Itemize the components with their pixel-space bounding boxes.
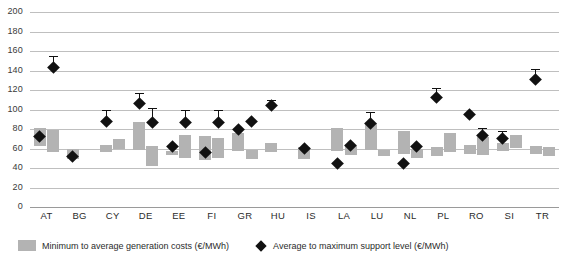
generation-cost-bar-hu-0 (265, 143, 277, 153)
y-tick-label-60: 60 (0, 144, 23, 153)
x-tick-label-ee: EE (162, 210, 195, 221)
generation-cost-bar-la-0 (331, 128, 343, 151)
generation-cost-bar-gr-1 (246, 150, 258, 159)
y-tick-label-120: 120 (0, 85, 23, 94)
generation-cost-bar-si-1 (510, 135, 522, 149)
gridline-160 (30, 51, 559, 52)
x-tick-label-cy: CY (96, 210, 129, 221)
support-level-marker-ee-1 (179, 116, 192, 129)
generation-cost-bar-at-1 (47, 130, 59, 152)
support-whisker-cap-fi-1 (214, 110, 223, 111)
chart-root: 200180160140120100806040200 ATBGCYDEEEFI… (0, 0, 567, 264)
support-level-marker-tr-0 (529, 73, 542, 86)
generation-cost-bar-cy-1 (113, 139, 125, 149)
support-whisker-cap-pl-0 (432, 88, 441, 89)
support-level-marker-gr-1 (245, 115, 258, 128)
x-tick-label-nl: NL (394, 210, 427, 221)
y-tick-label-40: 40 (0, 163, 23, 172)
y-tick-label-160: 160 (0, 46, 23, 55)
support-whisker-cap-de-1 (148, 108, 157, 109)
y-tick-label-100: 100 (0, 105, 23, 114)
x-tick-label-si: SI (493, 210, 526, 221)
generation-cost-bar-ee-1 (179, 135, 191, 158)
y-tick-label-200: 200 (0, 7, 23, 16)
gridline-120 (30, 90, 559, 91)
support-whisker-cap-tr-0 (531, 69, 540, 70)
generation-cost-bar-de-0 (133, 122, 145, 150)
x-tick-label-at: AT (30, 210, 63, 221)
support-whisker-cap-cy-0 (102, 110, 111, 111)
support-level-marker-fi-1 (212, 116, 225, 129)
legend-item-support-level: Average to maximum support level (€/MWh) (255, 241, 448, 251)
gridline-0 (30, 207, 559, 208)
x-tick-label-pl: PL (427, 210, 460, 221)
gridline-20 (30, 188, 559, 189)
chart-legend: Minimum to average generation costs (€/M… (18, 240, 448, 251)
gridline-200 (30, 12, 559, 13)
generation-cost-bar-pl-1 (444, 133, 456, 153)
support-whisker-cap-ee-1 (181, 110, 190, 111)
generation-cost-bar-de-1 (146, 146, 158, 166)
generation-cost-bar-fi-1 (212, 138, 224, 158)
gridline-80 (30, 129, 559, 130)
support-level-marker-at-1 (47, 61, 60, 74)
x-tick-label-la: LA (328, 210, 361, 221)
support-level-marker-pl-0 (430, 91, 443, 104)
y-tick-label-0: 0 (0, 202, 23, 211)
legend-label-generation-costs: Minimum to average generation costs (€/M… (42, 241, 229, 251)
generation-cost-bar-tr-1 (543, 147, 555, 157)
gridline-180 (30, 32, 559, 33)
support-whisker-cap-de-0 (135, 93, 144, 94)
y-tick-label-20: 20 (0, 183, 23, 192)
x-tick-label-tr: TR (526, 210, 559, 221)
support-whisker-cap-lu-0 (366, 112, 375, 113)
x-tick-label-ro: RO (460, 210, 493, 221)
gridline-40 (30, 168, 559, 169)
generation-cost-bar-nl-0 (398, 131, 410, 154)
generation-cost-bar-cy-0 (100, 145, 112, 153)
generation-cost-bar-pl-0 (431, 147, 443, 157)
support-level-marker-de-1 (146, 116, 159, 129)
generation-cost-bar-tr-0 (530, 146, 542, 155)
y-tick-label-140: 140 (0, 66, 23, 75)
gridline-140 (30, 71, 559, 72)
legend-item-generation-costs: Minimum to average generation costs (€/M… (18, 240, 229, 251)
y-tick-label-180: 180 (0, 27, 23, 36)
gray-bar-swatch-icon (18, 240, 36, 251)
x-axis-category-labels: ATBGCYDEEEFIGRHUISLALUNLPLROSITR (30, 210, 559, 226)
x-tick-label-is: IS (295, 210, 328, 221)
x-tick-label-hu: HU (261, 210, 294, 221)
support-level-marker-de-0 (133, 97, 146, 110)
x-tick-label-de: DE (129, 210, 162, 221)
x-tick-label-bg: BG (63, 210, 96, 221)
generation-cost-bar-ro-0 (464, 145, 476, 155)
plot-area: 200180160140120100806040200 (30, 12, 559, 207)
support-whisker-cap-at-1 (49, 56, 58, 57)
x-tick-label-lu: LU (361, 210, 394, 221)
x-tick-label-gr: GR (228, 210, 261, 221)
black-diamond-marker-icon (255, 240, 266, 251)
generation-cost-bar-lu-1 (378, 150, 390, 156)
support-level-marker-cy-0 (100, 115, 113, 128)
x-tick-label-fi: FI (195, 210, 228, 221)
y-tick-label-80: 80 (0, 124, 23, 133)
legend-label-support-level: Average to maximum support level (€/MWh) (273, 241, 448, 251)
